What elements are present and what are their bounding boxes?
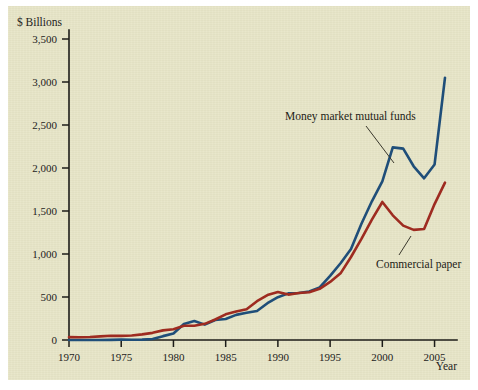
x-tick-label: 1995 (319, 351, 342, 363)
x-tick-label: 2000 (371, 351, 394, 363)
y-tick-label: 3,500 (32, 33, 57, 45)
y-tick-label: 500 (41, 291, 58, 303)
y-tick-label: 1,000 (32, 248, 57, 260)
y-axis-ticks: 05001,0001,5002,0002,5003,0003,500 (32, 33, 69, 346)
annotation-money-market-label: Money market mutual funds (285, 110, 416, 123)
annotation-money-market-leader-line (366, 126, 394, 163)
x-tick-label: 1970 (58, 351, 81, 363)
y-tick-label: 2,000 (32, 162, 57, 174)
y-tick-label: 1,500 (32, 205, 57, 217)
x-tick-label: 1975 (110, 351, 133, 363)
y-axis-title: $ Billions (17, 16, 63, 28)
x-axis-title: Year (436, 360, 457, 372)
annotation-commercial-paper-leader-line (399, 236, 411, 255)
x-tick-label: 1985 (215, 351, 238, 363)
x-tick-label: 1980 (162, 351, 185, 363)
y-tick-label: 3,000 (32, 76, 57, 88)
line-chart: 05001,0001,5002,0002,5003,0003,500 19701… (0, 0, 478, 390)
x-axis-ticks: 19701975198019851990199520002005 (58, 340, 446, 363)
y-tick-label: 2,500 (32, 119, 57, 131)
annotation-commercial-paper-label: Commercial paper (376, 258, 461, 271)
x-tick-label: 1990 (267, 351, 290, 363)
figure-container: 05001,0001,5002,0002,5003,0003,500 19701… (0, 0, 478, 390)
y-tick-label: 0 (52, 334, 58, 346)
